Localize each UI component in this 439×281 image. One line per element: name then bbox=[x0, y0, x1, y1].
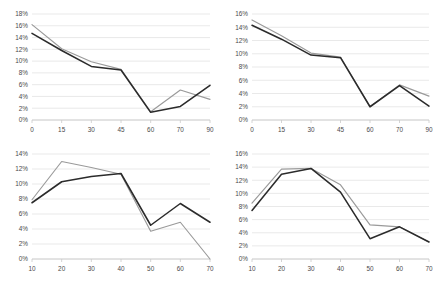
x-tick-label: 0 bbox=[250, 126, 254, 133]
y-tick-label: 10% bbox=[235, 50, 248, 57]
y-tick-label: 18% bbox=[15, 10, 28, 17]
y-tick-label: 12% bbox=[15, 165, 28, 172]
y-tick-label: 4% bbox=[239, 229, 249, 236]
x-tick-label: 30 bbox=[88, 265, 96, 272]
line-chart-top-left: 0%2%4%6%8%10%12%14%16%18%0153045607090 bbox=[0, 2, 220, 142]
line-chart-bottom-left: 0%2%4%6%8%10%12%14%10203040506070 bbox=[0, 142, 220, 281]
x-tick-label: 40 bbox=[337, 265, 345, 272]
x-tick-label: 70 bbox=[425, 265, 433, 272]
y-tick-label: 2% bbox=[19, 240, 29, 247]
x-tick-label: 15 bbox=[278, 126, 286, 133]
y-tick-label: 8% bbox=[19, 69, 29, 76]
y-tick-label: 6% bbox=[19, 81, 29, 88]
y-tick-label: 10% bbox=[235, 190, 248, 197]
x-tick-label: 15 bbox=[58, 126, 66, 133]
y-tick-label: 0% bbox=[19, 116, 29, 123]
y-tick-label: 6% bbox=[19, 210, 29, 217]
y-tick-label: 4% bbox=[19, 225, 29, 232]
y-tick-label: 14% bbox=[235, 163, 248, 170]
x-tick-label: 30 bbox=[88, 126, 96, 133]
data-series-line-series-dark bbox=[252, 25, 429, 106]
x-tick-label: 40 bbox=[117, 265, 125, 272]
line-chart-bottom-right: 0%2%4%6%8%10%12%14%16%10203040506070 bbox=[220, 142, 439, 281]
x-tick-label: 60 bbox=[396, 265, 404, 272]
data-series-line-series-light bbox=[32, 162, 210, 260]
y-tick-label: 16% bbox=[235, 150, 248, 157]
x-tick-label: 90 bbox=[425, 126, 433, 133]
data-series-line-series-light bbox=[252, 168, 429, 242]
y-tick-label: 12% bbox=[235, 177, 248, 184]
x-tick-label: 50 bbox=[366, 265, 374, 272]
y-tick-label: 8% bbox=[239, 63, 249, 70]
chart-panel-top-right: 0%2%4%6%8%10%12%14%16%0153045607090 bbox=[220, 2, 439, 142]
x-tick-label: 60 bbox=[177, 265, 185, 272]
x-tick-label: 60 bbox=[366, 126, 374, 133]
y-tick-label: 2% bbox=[239, 103, 249, 110]
y-tick-label: 2% bbox=[19, 105, 29, 112]
y-tick-label: 4% bbox=[19, 93, 29, 100]
y-tick-label: 6% bbox=[239, 77, 249, 84]
y-tick-label: 6% bbox=[239, 216, 249, 223]
y-tick-label: 10% bbox=[15, 57, 28, 64]
line-chart-top-right: 0%2%4%6%8%10%12%14%16%0153045607090 bbox=[220, 2, 439, 142]
y-tick-label: 2% bbox=[239, 242, 249, 249]
x-tick-label: 30 bbox=[307, 265, 315, 272]
chart-panel-bottom-left: 0%2%4%6%8%10%12%14%10203040506070 bbox=[0, 142, 220, 281]
y-tick-label: 12% bbox=[15, 46, 28, 53]
data-series-line-series-dark bbox=[252, 168, 429, 242]
x-tick-label: 50 bbox=[147, 265, 155, 272]
x-tick-label: 60 bbox=[147, 126, 155, 133]
y-tick-label: 8% bbox=[19, 195, 29, 202]
y-tick-label: 0% bbox=[19, 255, 29, 262]
y-tick-label: 4% bbox=[239, 90, 249, 97]
y-tick-label: 0% bbox=[239, 116, 249, 123]
x-tick-label: 30 bbox=[307, 126, 315, 133]
y-tick-label: 16% bbox=[235, 10, 248, 17]
x-tick-label: 45 bbox=[117, 126, 125, 133]
y-tick-label: 14% bbox=[15, 34, 28, 41]
x-tick-label: 45 bbox=[337, 126, 345, 133]
chart-panel-top-left: 0%2%4%6%8%10%12%14%16%18%0153045607090 bbox=[0, 2, 220, 142]
x-tick-label: 70 bbox=[177, 126, 185, 133]
x-tick-label: 0 bbox=[30, 126, 34, 133]
y-tick-label: 12% bbox=[235, 37, 248, 44]
figure-canvas: 0%2%4%6%8%10%12%14%16%18%0153045607090 0… bbox=[0, 0, 439, 281]
y-tick-label: 10% bbox=[15, 180, 28, 187]
y-tick-label: 0% bbox=[239, 255, 249, 262]
x-tick-label: 90 bbox=[206, 126, 214, 133]
x-tick-label: 70 bbox=[396, 126, 404, 133]
y-tick-label: 14% bbox=[235, 24, 248, 31]
x-tick-label: 20 bbox=[278, 265, 286, 272]
data-series-line-series-dark bbox=[32, 174, 210, 226]
x-tick-label: 20 bbox=[58, 265, 66, 272]
y-tick-label: 16% bbox=[15, 22, 28, 29]
x-tick-label: 10 bbox=[248, 265, 256, 272]
chart-panel-bottom-right: 0%2%4%6%8%10%12%14%16%10203040506070 bbox=[220, 142, 439, 281]
y-tick-label: 14% bbox=[15, 150, 28, 157]
y-tick-label: 8% bbox=[239, 203, 249, 210]
x-tick-label: 70 bbox=[206, 265, 214, 272]
x-tick-label: 10 bbox=[28, 265, 36, 272]
